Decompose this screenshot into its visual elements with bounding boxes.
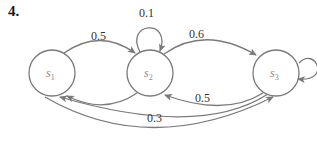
label-s2-s2: 0.1	[139, 6, 154, 20]
edge-s2-s3	[164, 40, 256, 55]
node-s1: s1	[29, 50, 75, 96]
label-s3-s2: 0.5	[195, 91, 210, 105]
label-s1-s3: 0.3	[147, 111, 162, 125]
edge-s2-s2-loop	[137, 28, 162, 52]
markov-chain-diagram: s1 s2 s3 0.5 0.1 0.6 0.5 0.3	[0, 0, 317, 142]
label-s2-s3: 0.6	[189, 27, 204, 41]
label-s1-s2: 0.5	[91, 29, 106, 43]
edge-s3-s1	[60, 94, 268, 117]
node-s3: s3	[253, 50, 299, 96]
edge-s3-s3-loop	[298, 58, 317, 79]
node-s2: s2	[127, 50, 173, 96]
edge-s2-s1	[67, 93, 137, 105]
